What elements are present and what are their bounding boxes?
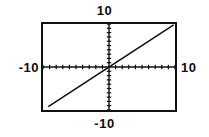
y-axis-max-label: 10 — [0, 4, 209, 17]
plot-canvas — [43, 24, 175, 110]
calculator-screen: 10 -10 10 -10 — [0, 0, 209, 137]
x-axis-min-label: -10 — [3, 61, 39, 74]
plot-frame — [41, 22, 177, 112]
x-axis-max-label: 10 — [181, 61, 209, 74]
y-axis-min-label: -10 — [0, 117, 209, 130]
